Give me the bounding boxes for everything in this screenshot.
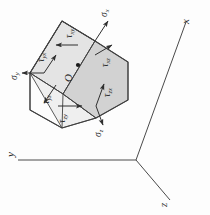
x-axis-line xyxy=(136,22,186,160)
svg-text:σy: σy xyxy=(9,72,20,80)
z-axis-label: z xyxy=(157,202,169,208)
tau-yz-subscript: yz xyxy=(45,95,52,102)
sigma-y-subscript: y xyxy=(13,72,20,76)
sigma-z-subscript: z xyxy=(97,129,104,133)
sigma-z-label: σz xyxy=(93,129,104,137)
figure-caption: Fig. 2.45 xyxy=(197,211,210,215)
svg-text:τyx: τyx xyxy=(36,53,47,62)
tau-xy-subscript: xy xyxy=(68,29,75,36)
tau-zy-subscript: zy xyxy=(61,114,68,121)
tau-xz-subscript: xz xyxy=(104,58,111,65)
y-axis-label: y xyxy=(4,152,16,158)
svg-text:σx: σx xyxy=(99,9,110,17)
tau-zx-subscript: zx xyxy=(106,88,113,95)
z-axis-line xyxy=(136,160,170,200)
x-axis-label: x xyxy=(179,19,191,25)
stress-element-cube xyxy=(30,21,128,128)
tau-yx-subscript: yx xyxy=(40,53,47,60)
center-point-marker xyxy=(76,63,80,67)
tau-yz-label: τyz xyxy=(41,95,52,104)
sigma-y-label: σy xyxy=(9,72,20,80)
sigma-x-arrow xyxy=(95,21,108,41)
sigma-x-subscript: x xyxy=(103,9,110,13)
svg-text:τyz: τyz xyxy=(41,95,52,104)
svg-text:σz: σz xyxy=(93,129,104,137)
stress-element-figure: y x z O xyxy=(0,0,210,215)
sigma-x-label: σx xyxy=(99,9,110,17)
center-point-label: O xyxy=(62,74,74,82)
tau-yx-label: τyx xyxy=(36,53,47,62)
figure-container: y x z O xyxy=(0,0,210,215)
